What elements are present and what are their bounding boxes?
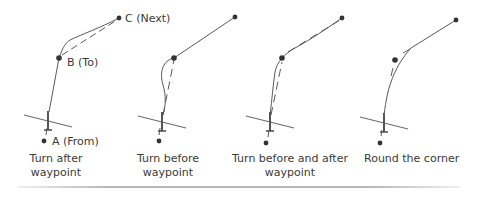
waypoint-a — [264, 141, 269, 146]
actual-path-turn — [270, 18, 342, 115]
label-a-from: A (From) — [52, 135, 99, 148]
aircraft-icon — [360, 113, 408, 132]
caption-round-corner: Round the corner — [364, 152, 474, 166]
waypoint-c — [454, 18, 459, 23]
caption-line: waypoint — [225, 166, 355, 180]
aircraft-icon — [24, 111, 72, 130]
waypoint-b — [171, 55, 177, 61]
waypoint-b — [56, 55, 62, 61]
panel-turn-before — [138, 15, 237, 144]
actual-path — [174, 17, 235, 58]
waypoint-a — [378, 141, 383, 146]
waypoint-c — [233, 15, 238, 20]
caption-line: waypoint — [20, 166, 92, 180]
caption-line: waypoint — [128, 166, 208, 180]
aircraft-icon — [246, 112, 294, 131]
planned-leg-dashed — [62, 20, 117, 55]
waypoint-c — [117, 16, 122, 21]
actual-path-turn — [384, 20, 456, 115]
caption-line: Round the corner — [364, 152, 474, 166]
caption-line: Turn before and after — [225, 152, 355, 166]
caption-turn-before: Turn before waypoint — [128, 152, 208, 180]
panel-turn-after: C (Next) B (To) A (From) — [24, 12, 170, 148]
panel-turn-before-after — [246, 16, 344, 146]
label-b-to: B (To) — [67, 56, 98, 69]
actual-path-turn — [161, 58, 174, 115]
aircraft-icon — [138, 112, 186, 131]
waypoint-b — [279, 55, 285, 61]
waypoint-a — [157, 139, 162, 144]
waypoint-b — [392, 57, 398, 63]
waypoint-c — [340, 16, 345, 21]
planned-leg-dashed — [391, 68, 393, 76]
leg-a-to-plane — [46, 128, 47, 135]
caption-line: Turn after — [20, 152, 92, 166]
caption-line: Turn before — [128, 152, 208, 166]
caption-turn-after: Turn after waypoint — [20, 152, 92, 180]
waypoint-a — [42, 139, 47, 144]
bottom-divider — [18, 186, 460, 188]
leg-a-to-plane — [381, 130, 382, 136]
label-c-next: C (Next) — [125, 12, 170, 25]
panel-round-corner — [360, 18, 458, 146]
actual-path — [49, 58, 59, 112]
caption-turn-before-after: Turn before and after waypoint — [225, 152, 355, 180]
